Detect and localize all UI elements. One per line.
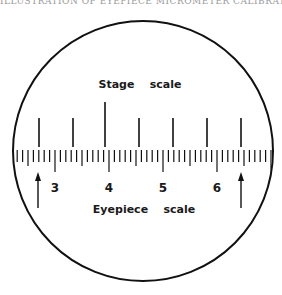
eyepiece-number-label: 4 [105,181,113,195]
eyepiece-number-label: 5 [159,181,167,195]
field-of-view-circle [13,21,273,281]
arrow-up-icon [35,172,41,181]
arrow-up-icon [238,172,244,181]
stage-scale-ticks [39,102,241,147]
eyepiece-number-label: 6 [213,181,221,195]
eyepiece-scale-labels: 3456 [51,181,221,195]
stage-scale-label: Stage scale [99,78,182,91]
eyepiece-scale-label: Eyepiece scale [93,203,195,216]
eyepiece-number-label: 3 [51,181,59,195]
eyepiece-scale-ticks [17,150,271,172]
microscope-field-diagram: 3456 Stage scale Eyepiece scale [0,0,282,295]
